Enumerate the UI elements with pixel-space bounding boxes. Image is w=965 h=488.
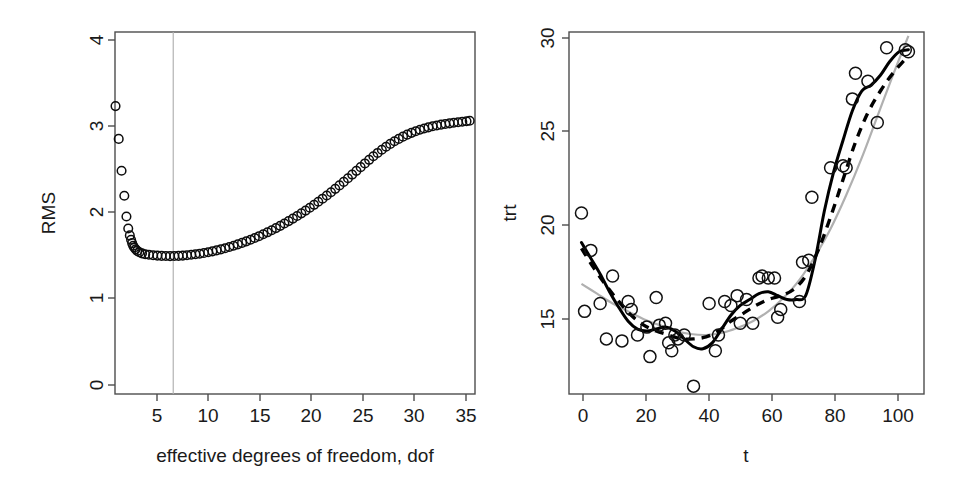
y-axis-tick-labels-right: 30 25 20 15	[537, 27, 558, 329]
curve-low-dof-fit	[581, 36, 908, 335]
x-tick-label-left-4: 25	[352, 405, 373, 426]
plot-left-svg: 4 3 2 1 0 RMS 5 10 15 2	[0, 0, 483, 488]
x-tick-label-left-2: 15	[249, 405, 270, 426]
data-point	[688, 380, 700, 392]
y-tick-label-right-1: 20	[537, 214, 558, 235]
x-tick-label-right-1: 20	[635, 405, 656, 426]
y-tick-label-right-2: 25	[537, 120, 558, 141]
data-point	[622, 296, 634, 308]
y-axis-title-left: RMS	[38, 192, 59, 234]
y-tick-label-left-3: 3	[86, 121, 107, 132]
data-point	[902, 46, 914, 58]
y-tick-label-left-1: 1	[86, 293, 107, 304]
data-point	[594, 298, 606, 310]
y-tick-label-left-2: 2	[86, 207, 107, 218]
x-tick-label-right-5: 100	[882, 405, 914, 426]
data-point	[579, 305, 591, 317]
figure-canvas: 4 3 2 1 0 RMS 5 10 15 2	[0, 0, 965, 488]
scatter-points-right	[575, 42, 914, 392]
data-point	[881, 42, 893, 54]
data-point	[772, 311, 784, 323]
data-point	[840, 162, 852, 174]
y-tick-label-right-3: 30	[537, 27, 558, 48]
y-tick-label-right-0: 15	[537, 308, 558, 329]
y-axis-tick-labels-left: 4 3 2 1 0	[86, 34, 107, 390]
x-tick-label-left-1: 10	[197, 405, 218, 426]
y-axis-ticks-left	[108, 40, 115, 385]
scatter-points-left	[111, 102, 474, 261]
data-point	[709, 345, 721, 357]
data-point	[120, 191, 129, 200]
x-tick-label-left-6: 35	[455, 405, 476, 426]
data-point	[117, 166, 126, 175]
panel-rms-vs-dof: 4 3 2 1 0 RMS 5 10 15 2	[0, 0, 483, 488]
data-point	[703, 298, 715, 310]
x-axis-tick-labels-left: 5 10 15 20 25 30 35	[152, 405, 477, 426]
data-point	[793, 296, 805, 308]
data-point	[600, 333, 612, 345]
data-point	[806, 191, 818, 203]
x-axis-title-left: effective degrees of freedom, dof	[156, 445, 434, 466]
y-axis-title-right: trt	[499, 204, 520, 222]
data-point	[849, 67, 861, 79]
x-tick-label-right-3: 60	[761, 405, 782, 426]
y-axis-ticks-right	[562, 38, 569, 319]
data-point	[122, 212, 131, 221]
curve-low-dof-fit	[581, 36, 908, 335]
data-point	[575, 207, 587, 219]
x-tick-label-right-2: 40	[698, 405, 719, 426]
data-point	[644, 351, 656, 363]
x-tick-label-right-0: 0	[578, 405, 589, 426]
y-tick-label-left-4: 4	[86, 34, 107, 45]
plot-right-svg: 30 25 20 15 trt 0 20 40 60 80	[483, 0, 965, 488]
data-point	[616, 335, 628, 347]
x-axis-ticks-right	[583, 394, 898, 401]
x-tick-label-right-4: 80	[824, 405, 845, 426]
panel-trt-vs-t: 30 25 20 15 trt 0 20 40 60 80	[483, 0, 965, 488]
x-tick-label-left-5: 30	[403, 405, 424, 426]
x-tick-label-left-3: 20	[300, 405, 321, 426]
x-axis-title-right: t	[743, 445, 749, 466]
data-point	[650, 292, 662, 304]
data-point	[607, 270, 619, 282]
x-axis-ticks-left	[157, 394, 466, 401]
x-axis-tick-labels-right: 0 20 40 60 80 100	[578, 405, 914, 426]
y-tick-label-left-0: 0	[86, 380, 107, 391]
data-point	[666, 345, 678, 357]
data-point	[775, 303, 787, 315]
x-tick-label-left-0: 5	[152, 405, 163, 426]
